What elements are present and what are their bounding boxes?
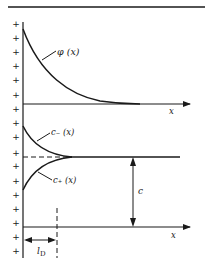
plus-icon: + xyxy=(12,90,20,100)
plus-icon: + xyxy=(12,190,20,200)
plus-icon: + xyxy=(12,246,20,256)
bottom-x-label: x xyxy=(171,230,176,240)
plus-icon: + xyxy=(12,218,20,228)
plus-icon: + xyxy=(12,61,20,71)
c-plus-curve xyxy=(23,157,72,190)
phi-label: φ (x) xyxy=(57,46,80,57)
c-plus-leader xyxy=(38,172,52,180)
plus-icon: + xyxy=(12,19,20,29)
diagram-canvas: + + + + + + + + + + + + + + + + + φ (x) … xyxy=(0,0,205,273)
c-minus-leader xyxy=(37,133,50,141)
plus-icon: + xyxy=(12,232,20,242)
surface-charges: + + + + + + + + + + + + + + + + + xyxy=(12,19,20,256)
arrow-up-icon xyxy=(130,157,136,166)
plus-icon: + xyxy=(12,148,20,158)
arrow-right-icon xyxy=(48,237,56,243)
plus-icon: + xyxy=(12,104,20,114)
plus-icon: + xyxy=(12,75,20,85)
phi-leader xyxy=(42,51,56,60)
plus-icon: + xyxy=(12,204,20,214)
top-x-label: x xyxy=(169,106,174,116)
c-plus-label: c₊ (x) xyxy=(53,175,76,185)
arrow-left-icon xyxy=(24,237,32,243)
arrow-down-icon xyxy=(130,218,136,227)
plus-icon: + xyxy=(12,33,20,43)
c-label: c xyxy=(138,186,143,196)
c-minus-label: c₋ (x) xyxy=(51,127,74,137)
plus-icon: + xyxy=(12,132,20,142)
phi-curve xyxy=(23,29,140,104)
plus-icon: + xyxy=(12,161,20,171)
debye-length-label: lD xyxy=(37,246,46,258)
plus-icon: + xyxy=(12,176,20,186)
plus-icon: + xyxy=(12,47,20,57)
plus-icon: + xyxy=(12,118,20,128)
